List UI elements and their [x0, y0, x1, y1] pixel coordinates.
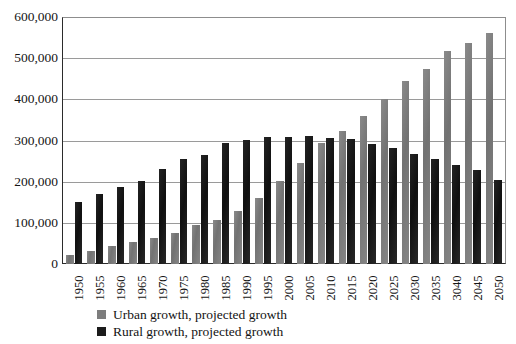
bar-group: [378, 17, 399, 264]
bar-urban-1950: [66, 255, 74, 264]
plot-area: [62, 17, 506, 264]
legend-item: Urban growth, projected growth: [97, 306, 287, 323]
x-axis-tick: 2045: [462, 266, 483, 312]
y-axis: 600,000500,000400,000300,000200,000100,0…: [0, 0, 58, 344]
legend-item: Rural growth, projected growth: [97, 323, 287, 340]
bar-group: [315, 17, 336, 264]
bar-urban-1995: [255, 198, 263, 264]
bar-urban-2015: [339, 131, 347, 264]
bar-group: [169, 17, 190, 264]
bar-urban-2050: [486, 33, 494, 264]
y-axis-tick-label: 100,000: [14, 216, 58, 230]
bar-urban-1975: [171, 233, 179, 264]
x-axis-tick: 2010: [315, 266, 336, 312]
x-axis-tick: 3040: [441, 266, 462, 312]
bar-rural-2050: [494, 180, 502, 264]
bar-urban-1955: [87, 251, 95, 264]
bar-group: [106, 17, 127, 264]
bar-group: [274, 17, 295, 264]
bar-group: [127, 17, 148, 264]
bar-rural-2010: [326, 138, 334, 264]
bar-group: [211, 17, 232, 264]
y-axis-tick-label: 0: [51, 257, 58, 271]
bar-group: [357, 17, 378, 264]
bar-rural-2000: [285, 137, 293, 264]
bar-group: [483, 17, 504, 264]
bar-urban-2035: [423, 69, 431, 264]
bar-rural-2030: [410, 154, 418, 264]
legend-label: Rural growth, projected growth: [113, 325, 283, 339]
bar-rural-3040: [452, 165, 460, 264]
bar-groups: [62, 17, 506, 264]
bar-group: [336, 17, 357, 264]
bar-group: [441, 17, 462, 264]
bar-urban-2025: [381, 99, 389, 264]
bar-rural-1950: [75, 202, 83, 264]
bar-urban-1990: [234, 211, 242, 264]
bar-rural-1965: [138, 181, 146, 264]
x-axis-tick: 1950: [64, 266, 85, 312]
bar-rural-1970: [159, 169, 167, 264]
bar-rural-1985: [222, 143, 230, 264]
bar-group: [85, 17, 106, 264]
x-axis-tick: 2015: [336, 266, 357, 312]
legend-label: Urban growth, projected growth: [113, 308, 287, 322]
bar-chart: 600,000500,000400,000300,000200,000100,0…: [0, 0, 516, 344]
x-axis-tick: 2050: [483, 266, 504, 312]
bar-group: [190, 17, 211, 264]
bar-rural-2020: [368, 144, 376, 264]
legend-swatch-rural: [97, 327, 106, 336]
bar-group: [64, 17, 85, 264]
bar-group: [420, 17, 441, 264]
bar-urban-2005: [297, 163, 305, 264]
x-axis-tick: 2020: [357, 266, 378, 312]
x-axis-tick-label: 2050: [493, 276, 506, 301]
bar-group: [148, 17, 169, 264]
bar-rural-1980: [201, 155, 209, 264]
bar-urban-2020: [360, 116, 368, 264]
bar-urban-1985: [213, 220, 221, 264]
bar-urban-2030: [402, 81, 410, 264]
bar-rural-2045: [473, 170, 481, 264]
bar-urban-2045: [465, 43, 473, 264]
bar-rural-2005: [305, 136, 313, 264]
bar-group: [253, 17, 274, 264]
y-axis-tick-label: 500,000: [14, 51, 58, 65]
bar-group: [462, 17, 483, 264]
y-axis-tick-label: 600,000: [14, 10, 58, 24]
bar-rural-2035: [431, 159, 439, 264]
bar-rural-2025: [389, 148, 397, 265]
bar-group: [399, 17, 420, 264]
y-axis-tick-label: 400,000: [14, 92, 58, 106]
x-axis-tick: 2030: [399, 266, 420, 312]
bar-urban-1980: [192, 225, 200, 264]
x-axis-tick: 2025: [378, 266, 399, 312]
bar-urban-2010: [318, 143, 326, 264]
bar-rural-1990: [243, 140, 251, 264]
bar-rural-1995: [264, 137, 272, 264]
bar-rural-2015: [347, 139, 355, 264]
bar-group: [232, 17, 253, 264]
x-axis-tick: 2005: [294, 266, 315, 312]
y-axis-tick-label: 300,000: [14, 134, 58, 148]
y-axis-tick-label: 200,000: [14, 175, 58, 189]
legend: Urban growth, projected growthRural grow…: [97, 306, 287, 340]
bar-rural-1975: [180, 159, 188, 264]
bar-urban-1960: [108, 246, 116, 264]
bar-rural-1955: [96, 194, 104, 264]
bar-group: [294, 17, 315, 264]
bar-rural-1960: [117, 187, 125, 264]
x-axis-tick: 2035: [420, 266, 441, 312]
bar-urban-1965: [129, 242, 137, 264]
bar-urban-1970: [150, 238, 158, 264]
bar-urban-3040: [444, 51, 452, 264]
legend-swatch-urban: [97, 310, 106, 319]
bar-urban-2000: [276, 181, 284, 264]
